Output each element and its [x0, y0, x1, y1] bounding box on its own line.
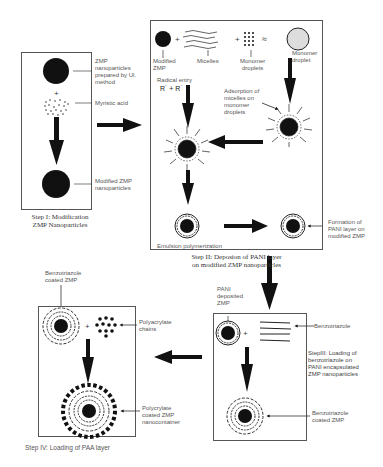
label-polyacrylate-chains: Polyacrylate chains — [139, 319, 172, 333]
zmp-nanoparticle-icon — [43, 58, 69, 84]
label-adsorption: Adsorption of micelles on monomer drople… — [224, 88, 259, 116]
monomer-droplets-icon — [243, 31, 256, 47]
right-arrow-icon — [97, 118, 142, 132]
svg-text:+: + — [235, 35, 240, 44]
down-arrow-icon — [182, 85, 194, 128]
label-modified-zmp-small: Modified ZMP — [153, 58, 176, 72]
label-radical-formula: R˙ + R˙ — [160, 85, 183, 92]
down-arrow-icon — [182, 170, 194, 205]
micelle-coated-zmp-icon — [164, 126, 210, 170]
label-emulsion-polymerization: Emulsion polymerization — [157, 243, 222, 250]
pointer-lines — [73, 71, 92, 184]
plus-icon: + — [54, 89, 59, 98]
svg-text:+: + — [85, 322, 90, 331]
label-micelles: Micelles — [197, 58, 219, 65]
myristic-acid-icon — [44, 99, 69, 116]
label-benzotriazole: Benzotriazole — [314, 323, 350, 330]
label-pani-deposited: PANI deposited ZMP — [217, 286, 243, 307]
down-arrow-icon — [82, 339, 94, 384]
polyacrylate-chains-icon — [95, 316, 117, 338]
left-arrow-icon — [208, 135, 263, 149]
diagram-graphics: + + + ≈ — [0, 0, 383, 467]
label-monomer-droplet: Monomer droplet — [292, 50, 317, 64]
adsorbed-micelle-droplet-icon — [266, 104, 312, 147]
label-formation-pani: Formation of PANI layer on modified ZMP — [328, 219, 365, 240]
svg-text:≈: ≈ — [262, 34, 267, 44]
modified-zmp-icon — [155, 31, 171, 47]
label-monomer-droplets: Monomer droplets — [240, 58, 265, 72]
pani-coated-zmp-icon — [175, 214, 199, 238]
label-benzotriazole-coated: Benzotriazole coated ZMP — [312, 410, 348, 424]
label-radical-entry: Radical entry — [157, 77, 192, 84]
modified-zmp-icon — [42, 170, 70, 198]
label-zmp-nanoparticles: ZMP nanoparticles prepared by Ul. method — [95, 58, 143, 86]
benzotriazole-coated-zmp-icon — [43, 308, 79, 344]
down-arrow-icon — [241, 347, 253, 392]
monomer-droplet-icon — [287, 28, 309, 50]
step3-caption: StepIII: Loading of benzotriazole on PAN… — [308, 350, 359, 378]
svg-text:+: + — [243, 329, 248, 338]
micelles-icon — [183, 31, 218, 49]
label-myristic-acid: Myristic acid — [95, 100, 128, 107]
polyacrylate-coated-nanocontainer-icon — [63, 385, 115, 437]
down-arrow-icon — [284, 58, 296, 104]
label-benzotriazole-coated-zmp: Benzotriazole coated ZMP — [45, 270, 81, 284]
svg-text:+: + — [175, 35, 180, 44]
pani-layer-zmp-icon — [281, 214, 305, 238]
benzotriazole-coated-zmp-icon — [227, 398, 263, 434]
benzotriazole-icon — [260, 322, 291, 341]
right-arrow-icon — [224, 219, 268, 233]
down-arrow-icon — [49, 117, 64, 165]
pani-deposited-zmp-icon — [216, 321, 240, 345]
label-polyacrylate-nanocontainer: Polycrylate coated ZMP nanocontainer — [142, 405, 180, 426]
step2-caption: Step II: Deposion of PANI layer on modif… — [150, 253, 323, 269]
label-modified-zmp: Modified ZMP nanoparticles — [95, 178, 132, 192]
step4-caption: Step IV: Loading of PAA layer — [25, 444, 110, 451]
left-arrow-icon — [154, 350, 202, 364]
step1-caption: Step I: Modification ZMP Nanoparticles — [10, 213, 110, 229]
